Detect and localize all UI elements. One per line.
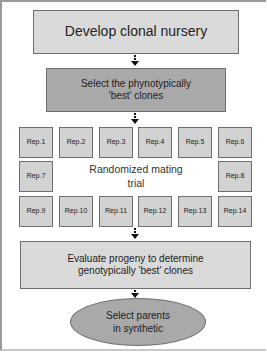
rep-label: Rep.2 — [67, 138, 86, 147]
select-parents-line1: Select parents — [106, 309, 170, 322]
rep-box: Rep.10 — [59, 196, 93, 227]
develop-nursery-box: Develop clonal nursery — [33, 10, 239, 54]
trial-label-line1: Randomized mating — [60, 163, 212, 177]
select-phenotypic-box: Select the phynotypically 'best' clones — [46, 68, 226, 112]
select-phenotypic-line1: Select the phynotypically — [81, 78, 191, 91]
develop-nursery-label: Develop clonal nursery — [65, 23, 207, 41]
rep-box: Rep.13 — [178, 196, 212, 227]
trial-label-line2: trial — [60, 177, 212, 191]
rep-box: Rep.4 — [138, 127, 172, 158]
arrow-down-icon — [134, 55, 136, 67]
rep-label: Rep.7 — [27, 172, 46, 181]
select-parents-line2: in synthetic — [106, 322, 170, 335]
rep-label: Rep.12 — [144, 207, 167, 216]
evaluate-line2: genotypically 'best' clones — [78, 265, 193, 278]
rep-box: Rep.3 — [99, 127, 133, 158]
rep-box: Rep.11 — [99, 196, 133, 227]
rep-label: Rep.8 — [226, 172, 245, 181]
select-parents-ellipse: Select parents in synthetic — [70, 298, 206, 346]
arrow-down-icon — [134, 228, 136, 240]
rep-label: Rep.11 — [105, 207, 127, 216]
rep-box: Rep.14 — [218, 196, 252, 227]
rep-label: Rep.1 — [27, 138, 46, 147]
rep-label: Rep.4 — [146, 138, 165, 147]
rep-box: Rep.1 — [19, 127, 53, 158]
rep-box: Rep.8 — [218, 161, 252, 192]
rep-box: Rep.2 — [59, 127, 93, 158]
evaluate-line1: Evaluate progeny to determine — [67, 253, 203, 266]
rep-label: Rep.14 — [224, 207, 247, 216]
randomized-trial-label: Randomized mating trial — [60, 163, 212, 190]
rep-box: Rep.7 — [19, 161, 53, 192]
rep-label: Rep.10 — [65, 207, 88, 216]
rep-box: Rep.9 — [19, 196, 53, 227]
rep-box: Rep.12 — [138, 196, 172, 227]
rep-label: Rep.13 — [184, 207, 207, 216]
rep-label: Rep.5 — [186, 138, 205, 147]
rep-box: Rep.5 — [178, 127, 212, 158]
arrow-down-icon — [134, 113, 136, 125]
evaluate-progeny-box: Evaluate progeny to determine genotypica… — [20, 241, 251, 289]
rep-label: Rep.6 — [226, 138, 245, 147]
rep-label: Rep.9 — [27, 207, 46, 216]
rep-label: Rep.3 — [107, 138, 126, 147]
select-phenotypic-line2: 'best' clones — [109, 90, 163, 103]
rep-box: Rep.6 — [218, 127, 252, 158]
